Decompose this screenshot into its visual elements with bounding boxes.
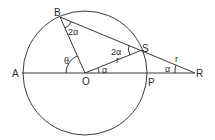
label-point-R: R — [196, 68, 203, 79]
angle-arc-alpha-R — [175, 65, 176, 73]
line-BR — [60, 17, 195, 73]
label-length-SR: r — [175, 54, 178, 64]
label-angle-alpha-R: α — [165, 64, 170, 74]
label-point-S: S — [142, 43, 149, 54]
label-point-A: A — [12, 68, 19, 79]
label-point-O: O — [82, 76, 90, 87]
label-angle-alpha-O: α — [102, 65, 107, 75]
label-point-B: B — [54, 7, 61, 18]
label-angle-2alpha-B: 2α — [68, 27, 78, 37]
label-point-P: P — [148, 77, 155, 88]
geometry-diagram: A O P R B S θ α 2α 2α α r r — [0, 0, 215, 140]
label-angle-theta: θ — [64, 56, 69, 66]
label-length-OS: r — [116, 55, 119, 65]
angle-arc-alpha-O — [98, 68, 99, 73]
angle-arc-2alpha-S — [128, 45, 130, 55]
